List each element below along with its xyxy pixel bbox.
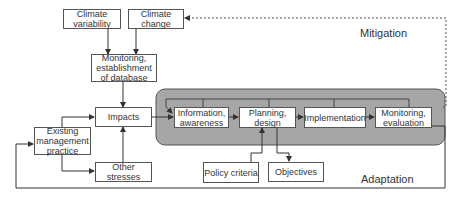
monitoring-database-box: Monitoring, establishment of database — [91, 54, 157, 82]
policy-criteria-box: Policy criteria — [203, 162, 259, 183]
objectives-box: Objectives — [268, 162, 324, 182]
implementation-box: Implementation — [304, 107, 366, 128]
climate-variability-box: Climate variability — [63, 9, 121, 29]
mitigation-label: Mitigation — [360, 27, 407, 39]
climate-change-box: Climate change — [128, 9, 184, 29]
other-stresses-box: Other stresses — [95, 162, 152, 182]
existing-practice-box: Existing management practice — [34, 127, 91, 155]
adaptation-label: Adaptation — [361, 173, 414, 185]
impacts-box: Impacts — [95, 107, 152, 127]
information-box: Information, awareness — [174, 107, 229, 128]
monitoring-evaluation-box: Monitoring, evaluation — [375, 107, 432, 128]
diagram-canvas: Climate variability Climate change Monit… — [0, 0, 461, 199]
planning-box: Planning, design — [239, 107, 296, 128]
